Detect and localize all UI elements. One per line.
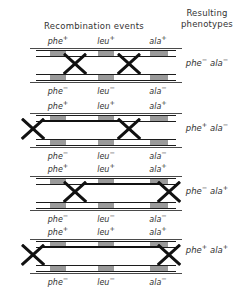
gene-label-ala-top: ala+ (149, 162, 166, 174)
panel-3: phe+ leu+ ala+ phe− (0, 162, 242, 224)
recombination-events-title: Recombination events (38, 21, 150, 31)
gene-label-leu-top: leu+ (97, 162, 115, 174)
gene-label-phe-top: phe+ (48, 162, 69, 174)
gene-label-leu-bottom: leu− (97, 149, 115, 161)
gene-label-phe-bottom: phe− (48, 212, 69, 224)
gene-label-ala-top: ala+ (149, 225, 166, 237)
gene-label-phe-bottom: phe− (48, 84, 69, 96)
panel-2-bottom-gene-labels: phe− leu− ala− (36, 149, 176, 161)
gene-label-ala-top: ala+ (149, 99, 166, 111)
gene-label-leu-top: leu+ (97, 99, 115, 111)
panel-4-top-gene-labels: phe+ leu+ ala+ (36, 225, 176, 237)
gene-label-ala-bottom: ala− (149, 84, 166, 96)
panel-1-chromosome-upper (36, 50, 176, 57)
panel-2-top-gene-labels: phe+ leu+ ala+ (36, 99, 176, 111)
gene-label-ala-top: ala+ (149, 34, 166, 46)
gene-label-phe-top: phe+ (48, 99, 69, 111)
panel-2-phenotype: phe+ ala− (172, 121, 242, 133)
panel-4-phenotype: phe+ ala+ (172, 243, 242, 255)
panel-3-chromosome-lower (36, 202, 176, 209)
gene-label-leu-top: leu+ (97, 225, 115, 237)
crossover-strand-upper (43, 246, 159, 248)
gene-label-ala-bottom: ala− (149, 149, 166, 161)
gene-label-phe-top: phe+ (48, 34, 69, 46)
panel-1-phenotype: phe− ala− (172, 56, 242, 68)
resulting-phenotypes-line1: Resulting (172, 8, 242, 19)
gene-label-ala-bottom: ala− (149, 275, 166, 287)
panel-4-chromosome-lower (36, 265, 176, 272)
gene-label-phe-top: phe+ (48, 225, 69, 237)
panel-1-guide-top (30, 48, 182, 49)
panel-1-bottom-gene-labels: phe− leu− ala− (36, 84, 176, 96)
panel-2: phe+ leu+ ala+ phe− (0, 99, 242, 161)
panel-4-guide-bottom (30, 273, 182, 274)
panel-3-bottom-gene-labels: phe− leu− ala− (36, 212, 176, 224)
panel-3-top-gene-labels: phe+ leu+ ala+ (36, 162, 176, 174)
panel-1-chromosome-lower (36, 74, 176, 81)
panel-4-bottom-gene-labels: phe− leu− ala− (36, 275, 176, 287)
panel-1-top-gene-labels: phe+ leu+ ala+ (36, 34, 176, 46)
gene-label-leu-bottom: leu− (97, 84, 115, 96)
panel-3-phenotype: phe− ala+ (172, 184, 242, 196)
recombination-figure: Recombination events Resulting phenotype… (0, 0, 242, 287)
panel-2-guide-top (30, 113, 182, 114)
gene-label-phe-bottom: phe− (48, 149, 69, 161)
gene-label-leu-bottom: leu− (97, 212, 115, 224)
gene-label-leu-top: leu+ (97, 34, 115, 46)
gene-label-ala-bottom: ala− (149, 212, 166, 224)
panel-2-chromosome-lower (36, 139, 176, 146)
gene-label-phe-bottom: phe− (48, 275, 69, 287)
resulting-phenotypes-line2: phenotypes (172, 19, 242, 30)
panel-3-guide-top (30, 176, 182, 177)
crossover-strand-upper (85, 183, 159, 185)
panel-4: phe+ leu+ ala+ phe− (0, 225, 242, 287)
panel-3-guide-bottom (30, 210, 182, 211)
crossover-strand-upper (43, 120, 119, 122)
panel-1: phe+ leu+ ala+ phe− leu− (0, 34, 242, 96)
gene-label-leu-bottom: leu− (97, 275, 115, 287)
panel-2-guide-bottom (30, 147, 182, 148)
resulting-phenotypes-title: Resulting phenotypes (172, 8, 242, 30)
panel-4-guide-top (30, 239, 182, 240)
panel-1-guide-bottom (30, 82, 182, 83)
